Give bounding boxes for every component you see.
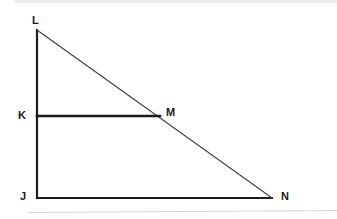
segment-ln-hypotenuse <box>37 30 272 198</box>
geometry-figure: L K M J N <box>0 0 337 219</box>
scan-artifact-bottom-line <box>28 211 337 213</box>
vertex-label-m: M <box>166 107 175 118</box>
vertex-label-k: K <box>18 110 26 121</box>
vertex-label-j: J <box>20 191 26 202</box>
scan-artifact-top <box>14 0 337 3</box>
vertex-label-l: L <box>32 15 39 26</box>
vertex-label-n: N <box>281 191 289 202</box>
